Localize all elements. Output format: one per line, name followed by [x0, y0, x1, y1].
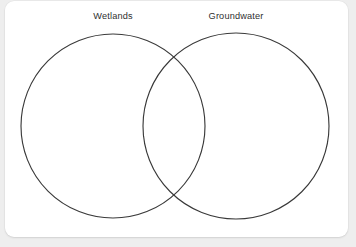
venn-circle-right[interactable]: [143, 33, 329, 219]
venn-label-left: Wetlands: [93, 10, 132, 22]
venn-circle-left[interactable]: [21, 34, 205, 218]
venn-label-right: Groundwater: [209, 10, 264, 22]
diagram-card: Wetlands Groundwater: [5, 1, 348, 237]
venn-diagram-canvas: Wetlands Groundwater: [0, 0, 356, 247]
venn-circles-group: [5, 1, 348, 237]
